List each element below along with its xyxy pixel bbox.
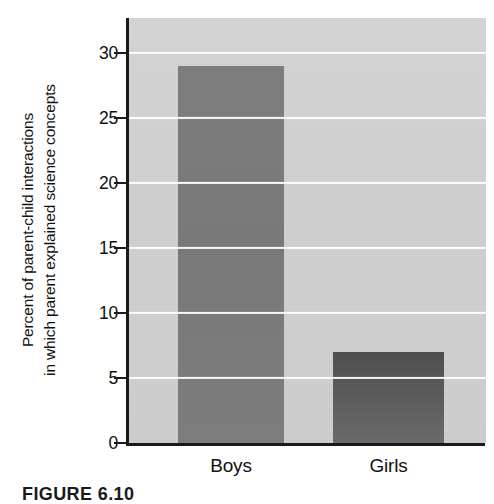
gridline-15 <box>129 247 486 249</box>
y-tick-label-10: 10 <box>84 303 118 324</box>
plot-area <box>129 18 486 443</box>
y-tick-label-15: 15 <box>84 238 118 259</box>
gridline-20 <box>129 182 486 184</box>
y-tick-label-5: 5 <box>84 368 118 389</box>
y-tick-label-30: 30 <box>84 43 118 64</box>
y-tick-label-25: 25 <box>84 108 118 129</box>
y-tick-label-0: 0 <box>84 433 118 454</box>
gridline-10 <box>129 312 486 314</box>
y-axis-title-line-2: in which parent explained science concep… <box>39 84 61 376</box>
y-axis-tick-labels: 051015202530 <box>78 0 118 495</box>
y-axis-title-text: Percent of parent-child interactions in … <box>17 84 61 376</box>
y-axis-title-line-1: Percent of parent-child interactions <box>17 84 39 376</box>
gridline-5 <box>129 377 486 379</box>
gridline-30 <box>129 52 486 54</box>
gridline-25 <box>129 117 486 119</box>
y-tick-label-20: 20 <box>84 173 118 194</box>
x-category-label-boys: Boys <box>210 455 251 477</box>
y-axis-title: Percent of parent-child interactions in … <box>0 0 78 460</box>
x-category-label-girls: Girls <box>369 455 407 477</box>
bar-girls <box>333 352 444 443</box>
bar-boys <box>178 66 284 443</box>
figure-caption: FIGURE 6.10 <box>22 484 134 504</box>
x-axis-line <box>126 443 485 446</box>
